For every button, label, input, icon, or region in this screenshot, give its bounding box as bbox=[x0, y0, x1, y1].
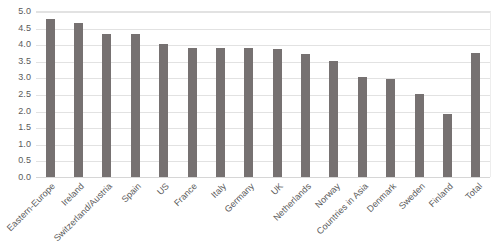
x-axis-tick: US bbox=[150, 177, 178, 252]
bar-slot bbox=[405, 12, 433, 177]
x-axis-tick: Spain bbox=[121, 177, 149, 252]
y-axis-tick-label: 3.5 bbox=[18, 56, 31, 66]
y-axis-tick-label: 5.0 bbox=[18, 6, 31, 16]
bar-slot bbox=[150, 12, 178, 177]
bar bbox=[273, 49, 282, 177]
bar bbox=[74, 23, 83, 177]
bars-container bbox=[36, 12, 490, 177]
y-axis-tick-label: 2.5 bbox=[18, 89, 31, 99]
bar-slot bbox=[291, 12, 319, 177]
y-axis-tick-label: 2.0 bbox=[18, 106, 31, 116]
bar bbox=[131, 34, 140, 177]
bar bbox=[415, 94, 424, 177]
bar-slot bbox=[377, 12, 405, 177]
bar bbox=[216, 48, 225, 177]
x-axis-tick: Finland bbox=[434, 177, 462, 252]
bar bbox=[188, 48, 197, 177]
x-axis-tick-label: US bbox=[155, 181, 171, 197]
bar bbox=[159, 44, 168, 177]
bar-slot bbox=[64, 12, 92, 177]
x-axis-tick: Netherlands bbox=[292, 177, 320, 252]
bar-slot bbox=[178, 12, 206, 177]
bar-slot bbox=[121, 12, 149, 177]
x-axis-tick: Total bbox=[463, 177, 491, 252]
x-axis: Eastern-EuropeIrelandSwitzerland/Austria… bbox=[36, 177, 491, 252]
x-axis-tick-label: Spain bbox=[119, 181, 143, 205]
bar bbox=[244, 48, 253, 177]
y-axis-tick-label: 0.5 bbox=[18, 155, 31, 165]
bar-slot bbox=[263, 12, 291, 177]
y-axis-tick-label: 4.5 bbox=[18, 23, 31, 33]
x-axis-tick: Switzerland/Austria bbox=[93, 177, 121, 252]
x-axis-tick-label: Italy bbox=[209, 181, 228, 200]
y-axis-tick-label: 3.0 bbox=[18, 72, 31, 82]
bar-slot bbox=[320, 12, 348, 177]
bar bbox=[301, 54, 310, 177]
x-axis-tick: Sweden bbox=[406, 177, 434, 252]
bar bbox=[102, 34, 111, 177]
bar bbox=[443, 114, 452, 177]
bar-slot bbox=[433, 12, 461, 177]
plot-area bbox=[36, 11, 491, 177]
y-axis-tick-label: 4.0 bbox=[18, 39, 31, 49]
y-axis-tick-label: 0.0 bbox=[18, 172, 31, 182]
bar bbox=[329, 61, 338, 177]
x-axis-tick: Italy bbox=[207, 177, 235, 252]
bar bbox=[386, 79, 395, 177]
bar-slot bbox=[348, 12, 376, 177]
bar bbox=[358, 77, 367, 177]
x-axis-tick-label: UK bbox=[269, 181, 285, 197]
x-axis-tick: Countries in Asia bbox=[349, 177, 377, 252]
bar-slot bbox=[36, 12, 64, 177]
y-axis-tick-label: 1.0 bbox=[18, 139, 31, 149]
x-axis-tick-label: Total bbox=[463, 181, 484, 202]
bar-slot bbox=[462, 12, 490, 177]
bar-slot bbox=[93, 12, 121, 177]
bar bbox=[471, 53, 480, 178]
bar-slot bbox=[206, 12, 234, 177]
x-axis-tick: Denmark bbox=[377, 177, 405, 252]
bar bbox=[46, 19, 55, 177]
x-axis-tick: Germany bbox=[235, 177, 263, 252]
bar-slot bbox=[235, 12, 263, 177]
x-axis-tick: France bbox=[178, 177, 206, 252]
bar-chart: 5.04.54.03.53.02.52.01.51.00.50.0 Easter… bbox=[0, 0, 495, 252]
y-axis-tick-label: 1.5 bbox=[18, 122, 31, 132]
